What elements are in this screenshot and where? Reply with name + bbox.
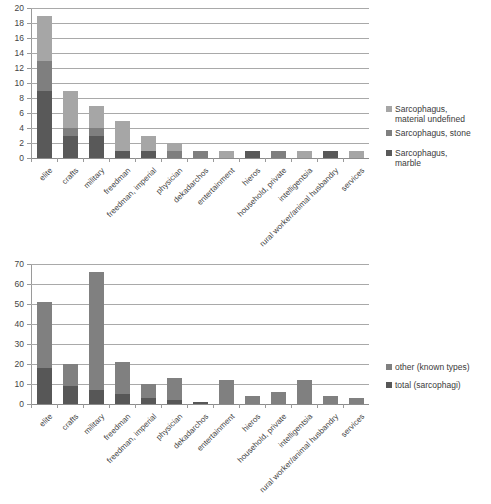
bar-column[interactable] xyxy=(219,264,234,404)
x-tick-mark xyxy=(31,158,32,162)
y-tick-label: 40 xyxy=(0,320,24,329)
bar-segment[interactable] xyxy=(37,368,52,404)
legend-item[interactable]: Sarcophagus, stone xyxy=(386,128,471,138)
bar-column[interactable] xyxy=(297,8,312,158)
bar-segment[interactable] xyxy=(297,151,312,159)
bar-column[interactable] xyxy=(193,8,208,158)
bar-column[interactable] xyxy=(37,8,52,158)
bar-segment[interactable] xyxy=(89,106,104,129)
y-tick-mark xyxy=(27,113,31,114)
bar-segment[interactable] xyxy=(63,386,78,404)
legend-label: Sarcophagus, stone xyxy=(395,128,471,138)
bar-column[interactable] xyxy=(167,8,182,158)
legend-item[interactable]: Sarcophagus, marble xyxy=(386,148,447,168)
bar-column[interactable] xyxy=(141,8,156,158)
y-tick-mark xyxy=(27,143,31,144)
y-tick-mark xyxy=(27,344,31,345)
x-tick-mark xyxy=(213,404,214,408)
bar-column[interactable] xyxy=(89,264,104,404)
bar-column[interactable] xyxy=(349,264,364,404)
bar-segment[interactable] xyxy=(115,362,130,394)
bar-column[interactable] xyxy=(193,264,208,404)
legend-label: Sarcophagus, material undefined xyxy=(395,104,465,124)
x-tick-mark xyxy=(343,158,344,162)
bar-segment[interactable] xyxy=(89,272,104,390)
bar-column[interactable] xyxy=(141,264,156,404)
legend-item[interactable]: other (known types) xyxy=(386,362,470,372)
bar-segment[interactable] xyxy=(219,151,234,159)
bar-column[interactable] xyxy=(297,264,312,404)
bar-column[interactable] xyxy=(245,8,260,158)
bar-segment[interactable] xyxy=(141,398,156,404)
bar-segment[interactable] xyxy=(37,61,52,91)
bar-segment[interactable] xyxy=(89,128,104,136)
bar-segment[interactable] xyxy=(297,380,312,404)
bar-column[interactable] xyxy=(245,264,260,404)
bar-segment[interactable] xyxy=(219,380,234,404)
bar-segment[interactable] xyxy=(167,143,182,151)
bar-column[interactable] xyxy=(89,8,104,158)
bar-segment[interactable] xyxy=(63,136,78,159)
bar-segment[interactable] xyxy=(37,16,52,61)
bar-segment[interactable] xyxy=(323,396,338,404)
legend-item[interactable]: total (sarcophagi) xyxy=(386,380,461,390)
y-tick-label: 10 xyxy=(0,79,24,88)
bar-segment[interactable] xyxy=(115,121,130,151)
bar-segment[interactable] xyxy=(349,398,364,404)
x-tick-mark xyxy=(57,404,58,408)
bar-column[interactable] xyxy=(37,264,52,404)
bar-column[interactable] xyxy=(167,264,182,404)
x-tick-mark xyxy=(83,158,84,162)
bar-segment[interactable] xyxy=(245,396,260,404)
legend-label: Sarcophagus, marble xyxy=(395,148,447,168)
bar-segment[interactable] xyxy=(141,384,156,398)
bar-column[interactable] xyxy=(271,8,286,158)
bar-segment[interactable] xyxy=(245,151,260,159)
bar-segment[interactable] xyxy=(193,402,208,404)
bar-segment[interactable] xyxy=(271,392,286,404)
bar-column[interactable] xyxy=(219,8,234,158)
bar-segment[interactable] xyxy=(141,151,156,159)
bar-segment[interactable] xyxy=(63,128,78,136)
bar-segment[interactable] xyxy=(63,364,78,386)
x-tick-mark xyxy=(31,404,32,408)
y-tick-label: 14 xyxy=(0,49,24,58)
y-tick-label: 50 xyxy=(0,300,24,309)
bar-segment[interactable] xyxy=(141,136,156,151)
x-tick-mark xyxy=(343,404,344,408)
bar-segment[interactable] xyxy=(323,151,338,159)
bar-column[interactable] xyxy=(271,264,286,404)
bar-segment[interactable] xyxy=(167,400,182,404)
bar-column[interactable] xyxy=(63,264,78,404)
bar-segment[interactable] xyxy=(115,151,130,159)
bar-column[interactable] xyxy=(115,264,130,404)
y-tick-mark xyxy=(27,53,31,54)
bar-segment[interactable] xyxy=(37,91,52,159)
y-tick-label: 4 xyxy=(0,124,24,133)
bar-segment[interactable] xyxy=(63,91,78,129)
y-tick-label: 20 xyxy=(0,4,24,13)
bar-segment[interactable] xyxy=(193,151,208,159)
bar-segment[interactable] xyxy=(167,151,182,159)
y-tick-label: 18 xyxy=(0,19,24,28)
x-tick-mark xyxy=(317,158,318,162)
legend-item[interactable]: Sarcophagus, material undefined xyxy=(386,104,465,124)
legend-swatch-icon xyxy=(386,106,392,112)
bar-column[interactable] xyxy=(115,8,130,158)
bar-segment[interactable] xyxy=(349,151,364,159)
x-tick-mark xyxy=(109,404,110,408)
bar-column[interactable] xyxy=(349,8,364,158)
bar-segment[interactable] xyxy=(37,302,52,368)
y-tick-mark xyxy=(27,38,31,39)
bar-column[interactable] xyxy=(323,264,338,404)
y-tick-label: 16 xyxy=(0,34,24,43)
bar-segment[interactable] xyxy=(115,394,130,404)
bar-column[interactable] xyxy=(323,8,338,158)
y-tick-label: 10 xyxy=(0,380,24,389)
bar-segment[interactable] xyxy=(89,136,104,159)
y-tick-label: 12 xyxy=(0,64,24,73)
bar-segment[interactable] xyxy=(167,378,182,400)
bar-segment[interactable] xyxy=(271,151,286,159)
bar-column[interactable] xyxy=(63,8,78,158)
bar-segment[interactable] xyxy=(89,390,104,404)
